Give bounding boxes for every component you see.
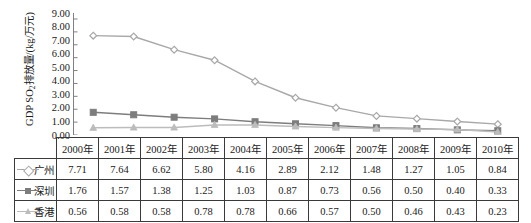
y-axis-tick-2-00: 2.00 [30, 102, 70, 113]
table-header-row: 2000年2001年2002年2003年2004年2005年2006年2007年… [15, 138, 519, 159]
table-cell: 0.46 [393, 201, 435, 222]
table-cell: 1.03 [225, 180, 267, 201]
data-point-marker [252, 78, 259, 85]
y-axis-tick-labels: 9.008.007.006.005.004.003.002.001.000.00 [30, 7, 70, 141]
table-header-2006年: 2006年 [309, 138, 351, 159]
table-row: 广州7.717.646.625.804.162.892.121.481.271.… [15, 159, 519, 180]
y-axis-tick-4-00: 4.00 [30, 75, 70, 86]
series-深圳 [90, 109, 501, 133]
table-cell: 1.05 [435, 159, 477, 180]
table-cell: 1.38 [141, 180, 183, 201]
table-header-2004年: 2004年 [225, 138, 267, 159]
legend-item-深圳[interactable]: 深圳 [15, 180, 57, 201]
table-cell: 1.76 [57, 180, 99, 201]
table-header-2000年: 2000年 [57, 138, 99, 159]
table-cell: 0.78 [183, 201, 225, 222]
table-cell: 0.58 [99, 201, 141, 222]
table-cell: 0.56 [351, 180, 393, 201]
data-table: 2000年2001年2002年2003年2004年2005年2006年2007年… [14, 137, 519, 222]
data-point-marker [211, 57, 218, 64]
table-cell: 2.89 [267, 159, 309, 180]
table-cell: 0.66 [267, 201, 309, 222]
table-cell: 0.33 [477, 180, 519, 201]
data-point-marker [454, 118, 461, 125]
diamond-marker-icon [17, 165, 32, 174]
table-cell: 7.64 [99, 159, 141, 180]
data-point-marker [333, 104, 340, 111]
table-cell: 0.87 [267, 180, 309, 201]
series-香港 [90, 121, 501, 134]
table-header-2003年: 2003年 [183, 138, 225, 159]
table-cell: 0.40 [435, 180, 477, 201]
y-axis-tick-6-00: 6.00 [30, 48, 70, 59]
y-axis-tick-9-00: 9.00 [30, 8, 70, 19]
table-cell: 0.78 [225, 201, 267, 222]
table-cell: 0.56 [57, 201, 99, 222]
table-cell: 0.50 [393, 180, 435, 201]
table-cell: 0.84 [477, 159, 519, 180]
series-广州 [90, 32, 501, 127]
legend-item-广州[interactable]: 广州 [15, 159, 57, 180]
data-table-wrapper: 2000年2001年2002年2003年2004年2005年2006年2007年… [14, 137, 519, 222]
table-cell: 1.27 [393, 159, 435, 180]
table-cell: 4.16 [225, 159, 267, 180]
data-point-marker [171, 46, 178, 53]
data-point-marker [292, 94, 299, 101]
data-point-marker [90, 109, 96, 115]
table-cell: 0.73 [309, 180, 351, 201]
table-row: 深圳1.761.571.381.251.030.870.730.560.500.… [15, 180, 519, 201]
table-header-2001年: 2001年 [99, 138, 141, 159]
table-body: 广州7.717.646.625.804.162.892.121.481.271.… [15, 159, 519, 222]
table-header-2010年: 2010年 [477, 138, 519, 159]
table-cell: 0.50 [351, 201, 393, 222]
square-marker-icon [17, 186, 32, 195]
table-cell: 0.57 [309, 201, 351, 222]
data-point-marker [131, 112, 137, 118]
data-point-marker [373, 113, 380, 120]
data-point-marker [413, 115, 420, 122]
table-cell: 6.62 [141, 159, 183, 180]
table-cell: 1.25 [183, 180, 225, 201]
table-header-2005年: 2005年 [267, 138, 309, 159]
table-cell: 5.80 [183, 159, 225, 180]
y-axis-tick-7-00: 7.00 [30, 35, 70, 46]
chart-figure: GDP SO2排放量/(kg/万元) 9.008.007.006.005.004… [0, 0, 531, 223]
table-cell: 0.58 [141, 201, 183, 222]
triangle-marker-icon [17, 207, 32, 216]
data-point-marker [90, 32, 97, 39]
data-point-marker [494, 121, 501, 128]
plot-area [73, 13, 518, 135]
table-corner-cell [15, 138, 57, 159]
table-cell: 7.71 [57, 159, 99, 180]
table-header-2007年: 2007年 [351, 138, 393, 159]
data-point-marker [130, 33, 137, 40]
y-axis-tick-3-00: 3.00 [30, 89, 70, 100]
table-header-2009年: 2009年 [435, 138, 477, 159]
line-chart-svg [73, 13, 518, 135]
y-axis-tick-8-00: 8.00 [30, 21, 70, 32]
legend-item-香港[interactable]: 香港 [15, 201, 57, 222]
table-cell: 0.23 [477, 201, 519, 222]
table-row: 香港0.560.580.580.780.780.660.570.500.460.… [15, 201, 519, 222]
y-axis-tick-1-00: 1.00 [30, 116, 70, 127]
data-point-marker [171, 114, 177, 120]
table-cell: 0.43 [435, 201, 477, 222]
table-cell: 1.48 [351, 159, 393, 180]
table-header-2002年: 2002年 [141, 138, 183, 159]
table-cell: 1.57 [99, 180, 141, 201]
table-cell: 2.12 [309, 159, 351, 180]
y-axis-tick-5-00: 5.00 [30, 62, 70, 73]
table-header-2008年: 2008年 [393, 138, 435, 159]
